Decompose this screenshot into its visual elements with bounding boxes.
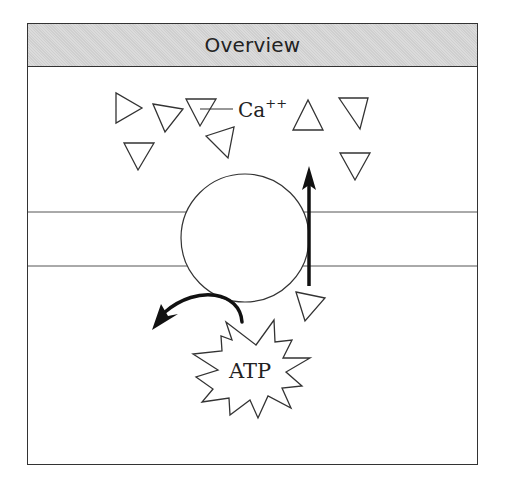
- ion-triangle-icon: [340, 153, 370, 180]
- calcium-pump-diagram: Ca++ ATP: [0, 0, 512, 487]
- ion-triangle-icon: [206, 127, 234, 158]
- pump-circle: [181, 174, 309, 302]
- ion-triangle-icon: [339, 98, 368, 129]
- ion-triangle-icon: [153, 104, 183, 132]
- ion-triangle-icon: [293, 100, 323, 130]
- ion-triangle-icon: [296, 292, 325, 321]
- atp-starburst: ATP: [193, 320, 310, 418]
- ion-triangle-icon: [186, 99, 216, 126]
- ion-triangle-icon: [124, 143, 154, 170]
- ion-label: Ca++: [238, 96, 287, 122]
- ion-triangle-icon: [116, 93, 142, 123]
- atp-label: ATP: [228, 359, 271, 383]
